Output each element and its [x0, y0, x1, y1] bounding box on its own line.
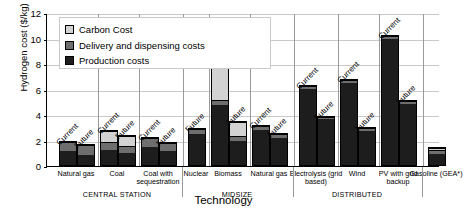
- legend-swatch-production-costs-icon: [65, 56, 74, 65]
- bar-segment-production: [359, 131, 375, 165]
- y-tick-label: 2: [21, 137, 41, 147]
- legend: Carbon Cost Delivery and dispensing cost…: [59, 17, 271, 69]
- bar-segment-production: [142, 147, 158, 165]
- y-tick-mark: [44, 40, 48, 41]
- y-tick-label: 6: [21, 86, 41, 96]
- legend-item-delivery-costs: Delivery and dispensing costs: [65, 38, 265, 54]
- bar-future-electrolysis-grid-based: [317, 116, 335, 166]
- y-tick-mark: [44, 91, 48, 92]
- legend-swatch-delivery-costs-icon: [65, 41, 74, 50]
- legend-item-production-costs: Production costs: [65, 53, 265, 69]
- bar-segment-production: [189, 134, 205, 165]
- bar-current-wind: [340, 79, 358, 166]
- y-tick-mark: [44, 14, 48, 15]
- legend-label-delivery-costs: Delivery and dispensing costs: [79, 40, 205, 51]
- band-separator: [422, 167, 423, 197]
- y-tick-mark: [44, 116, 48, 117]
- y-tick-label: 0: [21, 162, 41, 172]
- y-tick-mark: [44, 167, 48, 168]
- bar-future-pv-with-grid-backup: [399, 100, 417, 166]
- y-tick-mark: [44, 65, 48, 66]
- y-tick-label: 12: [21, 9, 41, 19]
- bar-gasoline-gea: [428, 147, 446, 166]
- y-tick-label: 10: [21, 35, 41, 45]
- bar-segment-production: [318, 119, 334, 165]
- y-tick-label: 8: [21, 60, 41, 70]
- bar-segment-production: [253, 130, 269, 165]
- legend-item-carbon-cost: Carbon Cost: [65, 22, 265, 38]
- bar-segment-delivery: [101, 142, 117, 149]
- bar-segment-delivery: [119, 146, 135, 153]
- group-separator: [294, 14, 295, 166]
- bar-future-nuclear: [188, 128, 206, 166]
- legend-label-production-costs: Production costs: [79, 55, 149, 66]
- bar-segment-production: [101, 150, 117, 165]
- group-separator: [338, 14, 339, 166]
- legend-label-carbon-cost: Carbon Cost: [79, 24, 132, 35]
- bar-segment-production: [382, 39, 398, 165]
- bar-segment-production: [119, 153, 135, 165]
- x-tick-label: Gasoline (GEA*): [407, 170, 465, 178]
- x-axis-title: Technology: [0, 194, 447, 206]
- bar-future-wind: [358, 127, 376, 166]
- bar-segment-production: [78, 155, 94, 165]
- bar-segment-production: [230, 141, 246, 165]
- bar-segment-production: [429, 154, 445, 165]
- gridline: [47, 14, 439, 15]
- band-separator: [293, 167, 294, 197]
- y-tick-mark: [44, 142, 48, 143]
- bar-segment-production: [212, 105, 228, 165]
- legend-swatch-carbon-cost-icon: [65, 25, 74, 34]
- bar-segment-production: [60, 151, 76, 165]
- bar-segment-production: [300, 89, 316, 165]
- bar-current-biomass: [211, 61, 229, 166]
- bar-segment-production: [271, 138, 287, 165]
- bar-segment-production: [160, 151, 176, 165]
- group-separator: [423, 14, 424, 166]
- bar-future-biomass: [229, 121, 247, 166]
- bar-segment-production: [400, 104, 416, 165]
- bar-current-electrolysis-grid-based: [299, 85, 317, 166]
- y-tick-label: 4: [21, 111, 41, 121]
- band-separator: [182, 167, 183, 197]
